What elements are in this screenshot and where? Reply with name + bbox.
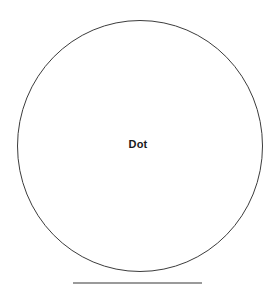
baseline-rule (73, 282, 202, 284)
diagram-canvas: Dot (0, 0, 276, 288)
circle-label: Dot (0, 137, 276, 151)
